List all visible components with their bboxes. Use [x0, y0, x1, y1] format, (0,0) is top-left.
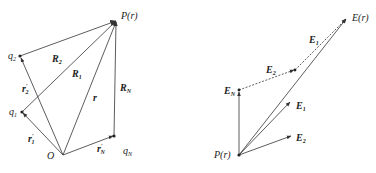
label-E2: E2: [295, 132, 306, 144]
label-q1: q1: [9, 106, 17, 118]
label-EN: EN: [223, 85, 236, 97]
point-EN-dot: [238, 89, 241, 92]
vector-R1: [22, 21, 116, 112]
label-E1: E1: [295, 100, 306, 112]
label-E1-chain: E1: [308, 34, 319, 46]
label-E-total: E(r): [351, 12, 369, 24]
vector-RN: [114, 22, 116, 136]
vector-E1-chain: [295, 19, 346, 70]
charge-qN-dot: [112, 134, 115, 137]
position-vectors-diagram: [20, 21, 116, 155]
vector-E-total: [239, 19, 346, 155]
point-P-dot: [237, 153, 240, 156]
label-origin: O: [47, 150, 54, 161]
label-E2-chain: E2: [265, 64, 276, 76]
vector-r: [63, 22, 116, 155]
label-r: r: [93, 92, 97, 103]
superposition-diagram: P(r) q2 q1 qN O R2 R1 RN r r′2 r′1 r′N E…: [0, 0, 376, 173]
field-superposition-diagram: [239, 19, 346, 155]
label-P-left: P(r): [120, 10, 138, 22]
label-r2-prime: r′2: [22, 83, 29, 95]
field-points: [237, 69, 296, 157]
label-rN-prime: r′N: [97, 143, 106, 155]
charge-q1-dot: [20, 110, 23, 113]
vector-E1: [239, 102, 290, 155]
label-qN: qN: [123, 145, 133, 157]
label-R2: R2: [51, 53, 62, 65]
label-r1-prime: r′1: [28, 133, 35, 145]
vector-rN-prime: [63, 136, 113, 155]
charge-q2-dot: [18, 54, 21, 57]
point-E2-chain-dot: [294, 69, 297, 72]
label-R1: R1: [71, 68, 82, 80]
label-q2: q2: [8, 50, 16, 62]
label-RN: RN: [119, 82, 132, 94]
vector-R2: [20, 21, 116, 56]
charge-points: [18, 54, 115, 137]
label-P-right: P(r): [213, 149, 231, 161]
